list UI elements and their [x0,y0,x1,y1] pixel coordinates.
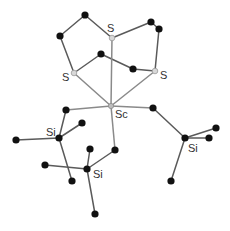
atom-c14 [41,161,48,168]
atom-label-s1: S [107,22,114,34]
atom-label-si1: Si [46,126,56,138]
atom-c6 [129,65,136,72]
atom-s1 [109,35,115,41]
bond-Sc-C7 [66,106,111,110]
atom-c9 [78,119,85,126]
bond-S3-Sc [111,71,155,106]
bond-Si1-C11 [59,138,72,181]
atom-label-s2: S [62,71,69,83]
atom-c11 [68,177,75,184]
bond-C2-S2 [60,36,74,73]
atom-label-si2: Si [93,168,103,180]
bond-Si2-C14 [45,165,87,169]
bond-Si1-C10 [16,138,59,140]
atom-label-si3: Si [188,142,198,154]
atom-s2 [71,70,77,76]
atom-c10 [12,136,19,143]
bond-S2-C5 [74,54,101,73]
atom-c3 [147,18,154,25]
atom-si1 [55,134,62,141]
atom-c8 [149,104,156,111]
atom-c18 [167,177,174,184]
bond-C1-C2 [60,15,85,36]
atom-c1 [81,11,88,18]
bond-C4-S3 [155,29,159,71]
atom-si2 [83,165,90,172]
bond-Si3-C18 [171,138,185,181]
atom-c7 [62,106,69,113]
bond-S2-Sc [74,73,111,106]
molecule-diagram: SSSScSiSiSi [0,0,230,231]
atom-c15 [91,210,98,217]
atom-c5 [97,50,104,57]
bond-S1-C3 [112,22,151,38]
bond-C13-Si2 [87,150,115,169]
atom-c17 [205,134,212,141]
atom-si3 [181,134,188,141]
labels-layer: SSSScSiSiSi [46,22,198,180]
atom-s3 [152,68,158,74]
bond-S1-Sc [111,38,112,106]
atom-c16 [212,124,219,131]
atom-c12 [86,145,93,152]
atom-c2 [56,32,63,39]
atom-label-s3: S [160,69,167,81]
atom-label-sc: Sc [115,108,128,120]
bond-C5-C6 [101,54,133,69]
atom-c13 [111,146,118,153]
atom-sc [108,103,113,108]
molecule-svg: SSSScSiSiSi [0,0,230,231]
atom-c4 [155,25,162,32]
bond-C8-Si3 [153,108,185,138]
